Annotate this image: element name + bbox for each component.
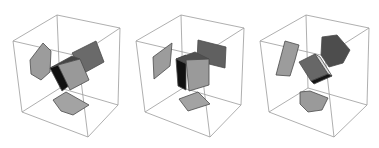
bounding-box-edge [306,15,369,28]
bounding-box-edge [210,105,241,137]
bounding-box-edge [260,15,306,41]
bounding-box-edge [145,88,183,112]
diagram-canvas [0,0,379,148]
left-projection [153,43,172,79]
figure-three-cube-projections [0,0,379,148]
bounding-box-edge [57,15,120,28]
back-projection [321,35,350,67]
bounding-box-edge [22,112,88,137]
bounding-box-edge [269,112,334,137]
bounding-box-edge [13,41,22,112]
bounding-box-edge [88,105,118,137]
left-projection [276,41,299,76]
bottom-projection [300,91,328,112]
bounding-box-edge [367,28,369,105]
bottom-projection [53,92,89,115]
left-projection [30,43,51,80]
panel-3 [260,15,369,137]
bounding-box-edge [260,41,269,112]
bounding-box-edge [136,15,181,41]
bounding-box-edge [145,112,210,137]
bounding-box-edge [181,15,244,28]
bounding-box-edge [241,28,244,105]
panel-1 [13,15,120,137]
bounding-box-edge [13,15,57,41]
bounding-box-edge [136,41,145,112]
bounding-box-edge [118,28,120,105]
bounding-box-edge [334,105,367,137]
cube-front-face [186,59,209,91]
panel-2 [136,15,244,137]
